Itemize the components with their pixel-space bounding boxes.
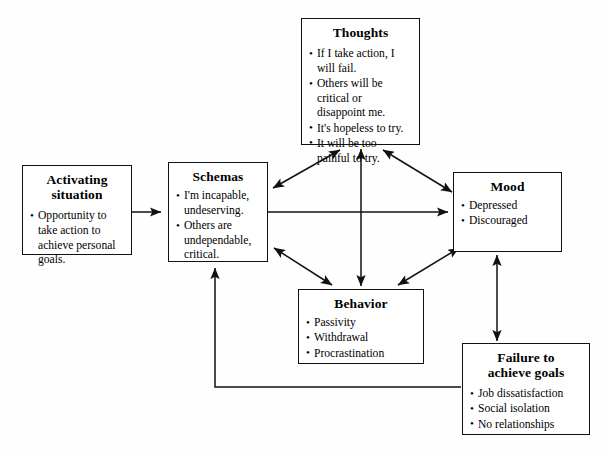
list-item: Procrastination [306,347,416,362]
list-item: Withdrawal [306,331,416,346]
list-item: Job dissatisfaction [470,387,582,402]
node-mood-title: Mood [461,179,554,194]
node-mood-items: Depressed Discouraged [461,199,554,229]
node-thoughts[interactable]: Thoughts If I take action, I will fail. … [301,18,420,145]
node-thoughts-title: Thoughts [309,25,412,40]
list-item: No relationships [470,418,582,433]
list-item: Others are undependable, critical. [176,219,260,263]
list-item: Depressed [461,199,554,214]
list-item: Others will be critical or disappoint me… [309,77,412,121]
node-failure-to-achieve-goals-items: Job dissatisfaction Social isolation No … [470,387,582,432]
node-schemas-items: I'm incapable, undeserving. Others are u… [176,189,260,263]
node-failure-to-achieve-goals[interactable]: Failure to achieve goals Job dissatisfac… [462,343,590,435]
node-activating-situation[interactable]: Activating situation Opportunity to take… [22,165,132,255]
connector-schemas-behavior [274,248,332,285]
connector-behavior-mood [398,248,459,285]
list-item: Opportunity to take action to achieve pe… [30,209,124,268]
list-item: I'm incapable, undeserving. [176,189,260,218]
diagram-canvas: Activating situation Opportunity to take… [0,0,608,456]
node-behavior-title: Behavior [306,296,416,311]
list-item: It will be too painful to try. [309,137,412,166]
node-activating-situation-title: Activating situation [30,172,124,202]
node-failure-to-achieve-goals-title: Failure to achieve goals [470,350,582,380]
node-behavior-items: Passivity Withdrawal Procrastination [306,316,416,361]
node-behavior[interactable]: Behavior Passivity Withdrawal Procrastin… [298,289,424,364]
node-thoughts-items: If I take action, I will fail. Others wi… [309,47,412,166]
list-item: Discouraged [461,214,554,229]
list-item: Social isolation [470,402,582,417]
node-schemas[interactable]: Schemas I'm incapable, undeserving. Othe… [168,162,268,262]
node-schemas-title: Schemas [176,169,260,184]
list-item: Passivity [306,316,416,331]
list-item: It's hopeless to try. [309,122,412,137]
node-activating-situation-items: Opportunity to take action to achieve pe… [30,209,124,268]
node-mood[interactable]: Mood Depressed Discouraged [453,172,562,252]
list-item: If I take action, I will fail. [309,47,412,76]
